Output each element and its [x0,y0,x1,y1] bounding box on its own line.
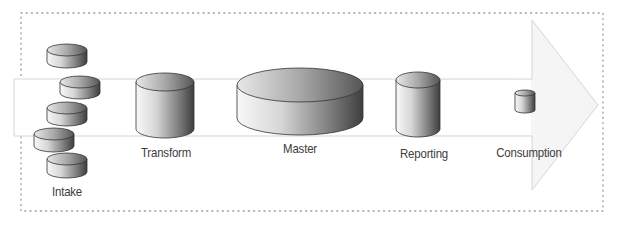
master-cylinder [237,68,363,135]
intake-cylinder-1 [47,44,87,68]
intake-cylinder-3 [47,102,87,126]
consumption-label: Consumption [496,145,561,160]
reporting-label: Reporting [400,146,448,161]
intake-label: Intake [52,184,82,199]
transform-cylinder [136,73,194,138]
reporting-cylinder [396,72,440,137]
master-label: Master [283,141,317,156]
consumption-cylinder [515,90,535,113]
intake-cylinder-2 [60,76,100,99]
intake-cylinder-4 [34,128,74,152]
pipeline-diagram: Intake Transform Master Reporting Consum… [0,0,617,225]
transform-label: Transform [141,145,191,160]
intake-cylinder-5 [47,153,87,178]
